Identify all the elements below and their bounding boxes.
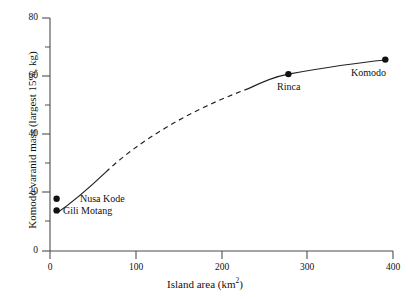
data-points: [53, 56, 388, 213]
plot-area: [0, 0, 408, 299]
y-axis-label: Komodo varanid mass (largest 15%, kg): [26, 45, 38, 235]
y-tick-label-80: 80: [14, 12, 38, 22]
chart-figure: 80 60 40 20 0 0 100 200 300 400 Komodo v…: [0, 0, 408, 299]
fit-curve-dashed: [106, 88, 249, 172]
axis-lines: [50, 18, 393, 251]
x-major-ticks: [50, 251, 393, 259]
y-major-ticks: [42, 18, 50, 251]
data-point-nusa-kode: [53, 196, 59, 202]
x-tick-label-200: 200: [202, 262, 242, 272]
x-axis-label: Island area (km2): [115, 276, 295, 290]
x-tick-label-400: 400: [373, 262, 408, 272]
data-point-komodo: [382, 56, 388, 62]
point-label-rinca: Rinca: [277, 81, 300, 92]
x-axis-label-base: Island area (km: [167, 278, 235, 290]
data-point-rinca: [285, 71, 291, 77]
point-label-nusa-kode: Nusa Kode: [80, 193, 125, 204]
x-tick-label-0: 0: [30, 262, 70, 272]
point-label-gili-motang: Gili Motang: [63, 205, 112, 216]
x-axis-label-tail: ): [239, 278, 243, 290]
y-tick-label-0: 0: [14, 245, 38, 255]
point-label-komodo: Komodo: [351, 67, 386, 78]
x-tick-label-100: 100: [116, 262, 156, 272]
x-tick-label-300: 300: [287, 262, 327, 272]
data-point-gili-motang: [53, 207, 59, 213]
